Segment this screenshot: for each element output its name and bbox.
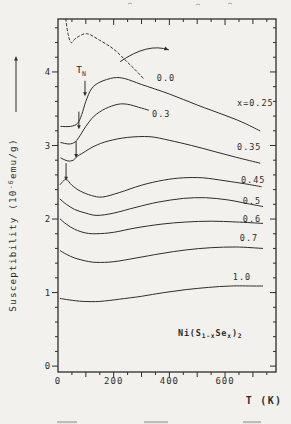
susceptibility-vs-temperature-chart: 0200400600012340.0x=0.250.30.350.450.50.… <box>0 0 291 424</box>
paper-background <box>0 0 291 424</box>
y-tick-label: 1 <box>45 288 51 298</box>
cropped-text-fragment <box>57 421 77 423</box>
series-label-x-0.25: x=0.25 <box>237 98 274 108</box>
x-tick-label: 0 <box>55 376 61 386</box>
y-tick-label: 4 <box>45 67 51 77</box>
x-axis-title: T (K) <box>246 395 283 406</box>
series-label-x-0.6: 0.6 <box>243 214 261 224</box>
series-label-x-0.7: 0.7 <box>240 233 258 243</box>
cropped-text-fragment <box>243 421 261 423</box>
y-axis-title: Susceptibility (10-6emu/g) <box>7 138 18 311</box>
y-tick-label: 2 <box>45 214 51 224</box>
series-label-x-0.5: 0.5 <box>243 196 261 206</box>
x-tick-label: 600 <box>215 376 234 386</box>
series-label-x-0.45: 0.45 <box>241 175 265 185</box>
y-tick-label: 0 <box>45 361 51 371</box>
y-tick-label: 3 <box>45 141 51 151</box>
series-label-x-1.0: 1.0 <box>233 272 251 282</box>
scanned-figure-page: 0200400600012340.0x=0.250.30.350.450.50.… <box>0 0 291 424</box>
cropped-text-fragment <box>144 421 168 423</box>
series-label-x-0.0: 0.0 <box>157 73 175 83</box>
series-label-x-0.3: 0.3 <box>152 109 170 119</box>
x-tick-label: 400 <box>160 376 179 386</box>
series-label-x-0.35: 0.35 <box>237 142 261 152</box>
x-tick-label: 200 <box>104 376 123 386</box>
